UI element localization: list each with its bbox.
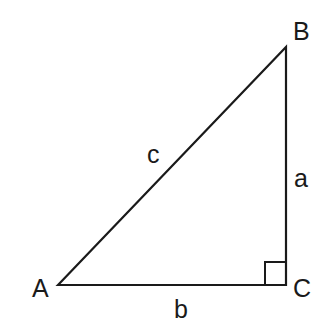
side-label-c: c xyxy=(147,140,160,168)
vertex-label-c: C xyxy=(293,274,311,302)
side-label-a: a xyxy=(294,164,308,192)
right-angle-marker xyxy=(265,262,286,285)
vertex-label-b: B xyxy=(293,17,310,45)
vertex-label-a: A xyxy=(32,274,49,302)
triangle-abc xyxy=(58,47,286,285)
side-label-b: b xyxy=(174,295,188,323)
right-triangle-diagram: A B C a b c xyxy=(0,0,329,331)
